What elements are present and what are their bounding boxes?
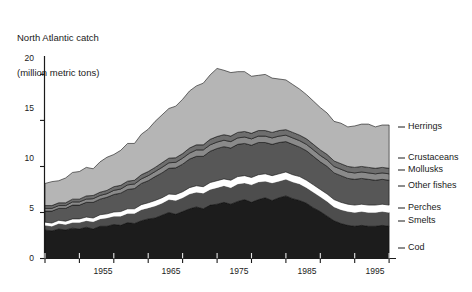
legend-label-perches: Perches	[408, 202, 441, 212]
y-tick-label: 0	[14, 253, 34, 263]
legend-label-smelts: Smelts	[408, 215, 436, 225]
legend-label-crustaceans: Crustaceans	[408, 152, 459, 162]
x-tick-label: 1995	[355, 266, 395, 276]
y-tick-label: 5	[14, 203, 34, 213]
y-tick-label: 15	[14, 103, 34, 113]
x-tick-label: 1965	[151, 266, 191, 276]
legend-label-mollusks: Mollusks	[408, 164, 443, 174]
y-tick-label: 20	[14, 53, 34, 63]
x-tick-label: 1985	[287, 266, 327, 276]
legend-leader-lines-group	[398, 127, 405, 248]
legend-label-herrings: Herrings	[408, 121, 442, 131]
legend-label-cod: Cod	[408, 242, 425, 252]
x-tick-label: 1955	[83, 266, 123, 276]
x-tick-label: 1975	[219, 266, 259, 276]
legend-label-other-fishes: Other fishes	[408, 180, 457, 190]
stacked-area-plot	[0, 0, 472, 292]
chart-root: North Atlantic catch (million metric ton…	[0, 0, 472, 292]
y-tick-label: 10	[14, 153, 34, 163]
area-bands-group	[45, 68, 389, 258]
